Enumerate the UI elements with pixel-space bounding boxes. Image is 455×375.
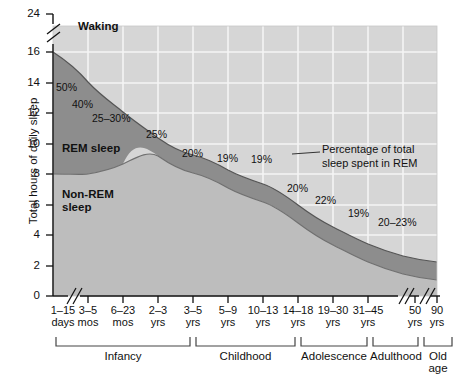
- rem-percentage-annotation-line1: Percentage of total: [322, 143, 414, 156]
- life-stage-label-adolescence: Adolescence: [298, 350, 370, 362]
- pct-label-40: 40%: [72, 98, 93, 110]
- rem-percentage-annotation-line2: sleep spent in REM: [322, 157, 417, 170]
- pct-label-25-30: 25–30%: [92, 112, 131, 124]
- x-tick-bottom: yrs: [343, 316, 393, 328]
- x-tick-marks: [88, 296, 437, 303]
- x-tick-31-45-yrs: 31–45 yrs: [343, 304, 393, 328]
- pct-label-19b: 19%: [251, 153, 272, 165]
- pct-label-19a: 19%: [217, 152, 238, 164]
- pct-label-20a: 20%: [182, 147, 203, 159]
- waking-region-label: Waking: [78, 20, 118, 32]
- y-tick-16: 16: [14, 45, 40, 57]
- y-tick-10: 10: [14, 137, 40, 149]
- life-stage-brackets: [56, 337, 452, 346]
- pct-label-22: 22%: [315, 194, 336, 206]
- rem-region-label: REM sleep: [62, 142, 120, 154]
- x-tick-top: 90: [412, 304, 455, 316]
- non-rem-region-label-line2: sleep: [62, 201, 91, 213]
- pct-label-50: 50%: [56, 81, 77, 93]
- y-tick-2: 2: [14, 259, 40, 271]
- y-tick-8: 8: [14, 167, 40, 179]
- life-stage-label-childhood: Childhood: [196, 350, 295, 362]
- sleep-chart-figure: Total hours of daily sleep 24 16 14 12 1…: [0, 0, 455, 375]
- x-tick-90-yrs: 90 yrs: [412, 304, 455, 328]
- y-tick-12: 12: [14, 106, 40, 118]
- pct-label-19c: 19%: [348, 207, 369, 219]
- x-tick-bottom: yrs: [412, 316, 455, 328]
- non-rem-region-label-line1: Non-REM: [62, 188, 114, 200]
- life-stage-label-old-age: Old age: [420, 350, 455, 374]
- y-tick-6: 6: [14, 198, 40, 210]
- pct-label-20b: 20%: [287, 182, 308, 194]
- y-tick-marks: [46, 14, 53, 296]
- y-tick-0: 0: [14, 289, 40, 301]
- x-tick-top: 31–45: [343, 304, 393, 316]
- life-stage-label-infancy: Infancy: [56, 350, 190, 362]
- y-tick-4: 4: [14, 228, 40, 240]
- life-stage-label-adulthood: Adulthood: [370, 350, 422, 362]
- y-tick-14: 14: [14, 76, 40, 88]
- pct-label-25: 25%: [146, 128, 167, 140]
- y-tick-24: 24: [14, 7, 40, 19]
- pct-label-20-23: 20–23%: [378, 216, 417, 228]
